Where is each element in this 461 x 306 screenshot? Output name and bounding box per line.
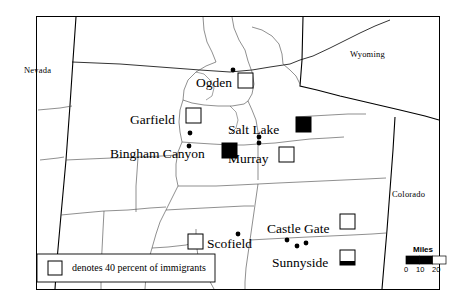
square-castle-gate [340,214,355,229]
idaho-utah-border [72,20,390,72]
scale-tick-0: 0 [404,266,408,274]
square-murray [279,147,294,162]
city-label-garfield: Garfield [130,113,175,127]
state-label-colorado: Colorado [392,190,425,199]
square-sunnyside-fill [340,261,355,265]
city-label-castle-gate: Castle Gate [267,222,330,236]
dot-garfield [188,131,193,136]
city-label-sunnyside: Sunnyside [272,256,328,270]
dot-castle-gate [285,238,290,243]
square-scofield [188,234,203,249]
city-label-murray: Murray [228,152,269,166]
city-label-salt-lake: Salt Lake [228,123,279,137]
city-label-bingham-canyon: Bingham Canyon [110,147,205,161]
square-salt-lake [296,117,311,132]
colorado-utah-border [382,117,395,289]
dot-murray [257,141,262,146]
scale-tick-10: 10 [416,266,424,274]
scale-bar-graphic [406,256,446,264]
square-ogden [238,73,253,88]
city-label-ogden: Ogden [196,76,232,90]
wyoming-border [300,17,439,120]
scale-bar-title: Miles [413,246,433,254]
dot-ogden [231,68,236,73]
state-label-nevada: Nevada [24,66,51,75]
square-garfield [186,108,201,123]
dot-castle-gate-alt [304,241,309,246]
scale-tick-20: 20 [432,266,440,274]
dot-sunnyside [295,244,300,249]
legend-label: denotes 40 percent of immigrants [72,263,206,273]
nevada-utah-border [55,17,76,289]
city-label-scofield: Scofield [207,237,252,251]
map-figure: Nevada Wyoming Colorado Ogden Garfield S… [0,0,461,306]
legend-swatch [48,261,62,275]
state-label-wyoming: Wyoming [350,50,385,59]
